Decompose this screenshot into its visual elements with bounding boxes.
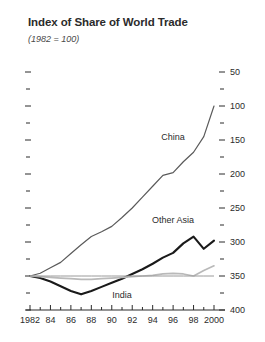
y-tick-label: 100 bbox=[230, 101, 245, 111]
y-tick-label: 200 bbox=[230, 169, 245, 179]
y-tick-label: 400 bbox=[230, 305, 245, 315]
series-line-other-asia bbox=[30, 237, 214, 295]
y-axis-minor-ticks bbox=[26, 89, 224, 293]
x-tick-label: 86 bbox=[66, 315, 76, 325]
y-tick-label: 250 bbox=[230, 203, 245, 213]
series-line-india bbox=[30, 266, 214, 280]
chart-plot: 40035030025020015010050 1982848688909294… bbox=[0, 0, 265, 342]
y-tick-label: 300 bbox=[230, 237, 245, 247]
y-tick-label: 350 bbox=[230, 271, 245, 281]
x-tick-label: 1982 bbox=[20, 315, 40, 325]
chart-series-lines bbox=[30, 106, 214, 294]
x-axis-ticks bbox=[30, 305, 214, 310]
x-axis-tick-labels: 198284868890929496982000 bbox=[20, 315, 224, 325]
y-axis-tick-labels: 40035030025020015010050 bbox=[230, 67, 245, 315]
x-tick-label: 92 bbox=[127, 315, 137, 325]
x-tick-label: 98 bbox=[189, 315, 199, 325]
series-label-china: China bbox=[161, 132, 185, 142]
y-tick-label: 150 bbox=[230, 135, 245, 145]
series-line-china bbox=[30, 106, 214, 276]
x-tick-label: 88 bbox=[86, 315, 96, 325]
y-tick-label: 50 bbox=[230, 67, 240, 77]
x-tick-label: 96 bbox=[168, 315, 178, 325]
x-tick-label: 94 bbox=[148, 315, 158, 325]
x-tick-label: 84 bbox=[45, 315, 55, 325]
x-tick-label: 90 bbox=[107, 315, 117, 325]
series-label-india: India bbox=[112, 290, 132, 300]
chart-container: Index of Share of World Trade (1982 = 10… bbox=[0, 0, 265, 342]
x-tick-label: 2000 bbox=[204, 315, 224, 325]
series-label-other-asia: Other Asia bbox=[152, 215, 194, 225]
